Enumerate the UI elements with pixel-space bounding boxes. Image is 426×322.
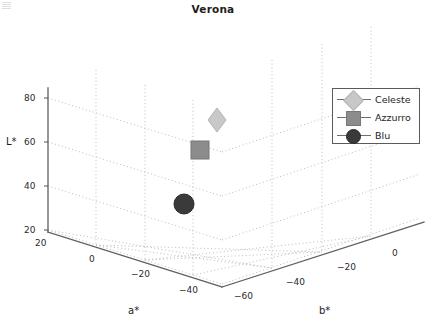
legend-item-celeste[interactable]: Celeste xyxy=(333,90,421,108)
tick-label-a-20: 20 xyxy=(35,238,46,248)
tick-label-L-80: 80 xyxy=(24,93,35,103)
data-points xyxy=(174,108,226,214)
tick-label-L-40: 40 xyxy=(24,181,35,191)
chart-figure: Verona xyxy=(0,0,426,322)
legend-label-blu: Blu xyxy=(375,130,390,141)
legend-item-blu[interactable]: Blu xyxy=(333,126,421,144)
tick-label-a-0: 0 xyxy=(89,254,95,264)
axis-label-L: L* xyxy=(6,136,17,147)
plot-area xyxy=(0,0,426,322)
grid-back-right xyxy=(222,27,420,284)
axis-label-a: a* xyxy=(128,305,139,316)
grid-back-left xyxy=(48,70,222,284)
circle-marker-icon xyxy=(346,129,361,144)
grid-floor xyxy=(48,230,371,275)
legend-label-azzurro: Azzurro xyxy=(375,112,411,123)
tick-label-a-neg20: −20 xyxy=(131,269,150,279)
tick-label-a-neg40: −40 xyxy=(179,285,198,295)
tick-label-b-neg40: −40 xyxy=(286,277,305,287)
square-marker-icon xyxy=(346,111,361,126)
legend-label-celeste: Celeste xyxy=(375,94,410,105)
legend-sample-azzurro xyxy=(333,108,375,126)
legend-sample-celeste xyxy=(333,90,375,108)
tick-label-L-60: 60 xyxy=(24,137,35,147)
legend: Celeste Azzurro Blu xyxy=(332,88,420,144)
legend-item-azzurro[interactable]: Azzurro xyxy=(333,108,421,126)
tick-label-b-0: 0 xyxy=(392,248,398,258)
tick-label-L-20: 20 xyxy=(24,225,35,235)
tick-label-b-neg20: −20 xyxy=(337,262,356,272)
point-blu xyxy=(174,194,194,214)
tick-label-b-neg60: −60 xyxy=(234,291,253,301)
legend-sample-blu xyxy=(333,126,375,144)
point-azzurro xyxy=(191,141,209,159)
point-celeste xyxy=(208,108,226,132)
axis-label-b: b* xyxy=(319,305,330,316)
